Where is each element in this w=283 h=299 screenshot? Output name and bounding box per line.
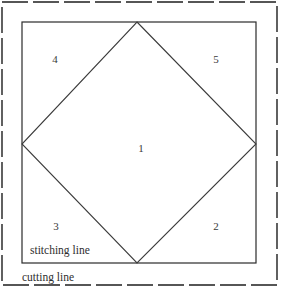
piece-label-2: 2 [208,221,224,232]
piece-label-3: 3 [48,221,64,232]
stitching-line-label: stitching line [30,245,90,257]
cutting-line-label: cutting line [22,272,74,284]
piece-label-4: 4 [47,54,63,65]
quilt-block-diagram: 1 2 3 4 5 stitching line cutting line [0,0,283,299]
piece-label-5: 5 [208,54,224,65]
piece-label-1: 1 [133,143,149,154]
